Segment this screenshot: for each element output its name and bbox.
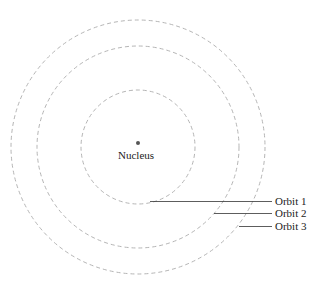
nucleus-label: Nucleus	[118, 149, 154, 161]
nucleus-dot	[136, 141, 140, 145]
atom-diagram	[0, 0, 324, 291]
orbit-2-label: Orbit 2	[275, 207, 306, 219]
orbit-1-circle	[81, 90, 195, 204]
orbit-2-circle	[37, 46, 239, 248]
orbit-3-circle	[11, 20, 265, 274]
orbit-1-label: Orbit 1	[275, 195, 306, 207]
orbit-3-label: Orbit 3	[275, 220, 306, 232]
